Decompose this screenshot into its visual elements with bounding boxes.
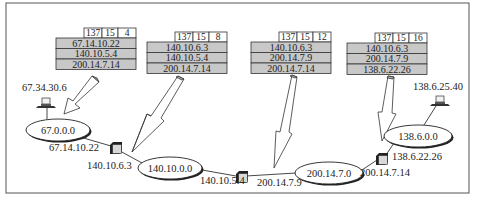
interface-address: 140.10.6.3 bbox=[87, 160, 132, 171]
computer-icon bbox=[430, 96, 450, 106]
interface-address: 138.6.22.26 bbox=[392, 151, 442, 162]
network-label: 140.10.0.0 bbox=[148, 163, 193, 174]
network-n4: 138.6.0.0 bbox=[384, 125, 454, 149]
router-icon bbox=[376, 153, 388, 165]
packet-header-value: 15 bbox=[396, 33, 406, 43]
packet-header-value: 137 bbox=[377, 33, 392, 43]
network-label: 67.0.0.0 bbox=[41, 125, 75, 136]
interface-address: 200.14.7.9 bbox=[257, 177, 302, 188]
packet-header-value: 15 bbox=[196, 32, 206, 42]
interface-address: 140.10.5.4 bbox=[200, 175, 245, 186]
link-net4-host2 bbox=[424, 106, 436, 125]
network-routing-diagram: 13715467.14.10.22140.10.5.4200.14.7.1413… bbox=[0, 0, 477, 207]
packet-address: 140.10.6.3 bbox=[270, 42, 313, 53]
host-computer: 138.6.25.40 bbox=[413, 81, 463, 106]
computer-icon bbox=[36, 98, 56, 108]
packet-header-value: 8 bbox=[216, 32, 221, 42]
network-n3: 200.14.7.0 bbox=[295, 162, 365, 186]
packet-table: 137158140.10.6.3140.10.5.4200.14.7.14 bbox=[147, 32, 227, 74]
packet-address: 200.14.7.14 bbox=[267, 63, 315, 74]
arrow-1-icon bbox=[64, 76, 99, 114]
packet-table: 13715467.14.10.22140.10.5.4200.14.7.14 bbox=[56, 28, 136, 70]
packet-address: 67.14.10.22 bbox=[72, 38, 120, 49]
router-icon bbox=[110, 142, 122, 154]
packet-address: 200.14.7.9 bbox=[270, 52, 313, 63]
host-computer: 67.34.30.6 bbox=[22, 82, 67, 108]
arrow-2-icon bbox=[132, 76, 184, 152]
packet-header-value: 15 bbox=[105, 28, 115, 38]
network-label: 138.6.0.0 bbox=[398, 131, 437, 142]
network-label: 200.14.7.0 bbox=[307, 168, 352, 179]
packet-address: 200.14.7.9 bbox=[366, 53, 409, 64]
packet-address: 140.10.6.3 bbox=[166, 42, 209, 53]
packet-table: 1371512140.10.6.3200.14.7.9200.14.7.14 bbox=[251, 32, 331, 74]
packet-header-value: 12 bbox=[317, 32, 327, 42]
packet-address: 138.6.22.26 bbox=[363, 64, 411, 75]
arrow-3-icon bbox=[274, 75, 297, 168]
packet-address: 140.10.5.4 bbox=[75, 48, 118, 59]
packet-header-value: 16 bbox=[413, 33, 423, 43]
packet-header-value: 137 bbox=[281, 32, 296, 42]
host-address: 67.34.30.6 bbox=[22, 82, 67, 93]
packet-header-value: 137 bbox=[177, 32, 192, 42]
packet-header-value: 137 bbox=[86, 28, 101, 38]
network-n2: 140.10.0.0 bbox=[138, 157, 204, 181]
packet-address: 140.10.6.3 bbox=[366, 43, 409, 54]
packet-address: 140.10.5.4 bbox=[166, 52, 209, 63]
packet-address: 200.14.7.14 bbox=[163, 63, 211, 74]
link-router2-net3 bbox=[246, 173, 296, 176]
network-n1: 67.0.0.0 bbox=[26, 119, 92, 143]
interface-address: 200.14.7.14 bbox=[360, 167, 411, 178]
packet-address: 200.14.7.14 bbox=[72, 59, 120, 70]
packet-tables: 13715467.14.10.22140.10.5.4200.14.7.1413… bbox=[56, 28, 427, 75]
arrows bbox=[64, 75, 396, 168]
packet-header-value: 4 bbox=[125, 28, 130, 38]
packet-table: 1371516140.10.6.3200.14.7.9138.6.22.26 bbox=[347, 33, 427, 75]
host-address: 138.6.25.40 bbox=[413, 81, 463, 92]
packet-header-value: 15 bbox=[300, 32, 310, 42]
interface-address: 67.14.10.22 bbox=[49, 142, 99, 153]
